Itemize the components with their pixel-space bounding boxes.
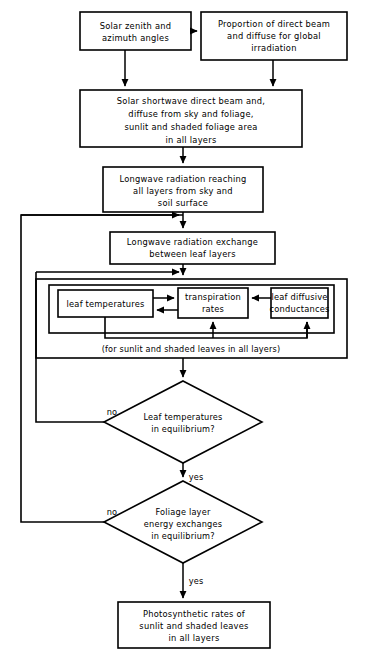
node-longwave-exchange: Longwave radiation exchange between leaf…: [110, 232, 275, 264]
node-transpiration-rates-line-0: transpiration: [185, 292, 241, 302]
label-foliage-yes: yes: [189, 576, 204, 586]
flowchart-svg: Solar zenith and azimuth angles Proporti…: [0, 0, 370, 655]
node-shortwave-line-1: diffuse from sky and foliage,: [128, 109, 253, 119]
decision-leaf-temp-line-1: in equilibrium?: [151, 424, 215, 434]
decision-foliage-energy-equilibrium: Foliage layer energy exchanges in equili…: [104, 481, 262, 563]
node-proportion-beam-line-0: Proportion of direct beam: [218, 19, 330, 29]
node-shortwave-line-0: Solar shortwave direct beam and,: [117, 96, 265, 106]
label-foliage-no: no: [107, 507, 118, 517]
node-photosynthetic-line-0: Photosynthetic rates of: [143, 609, 246, 619]
node-longwave-reaching: Longwave radiation reaching all layers f…: [103, 167, 263, 212]
node-shortwave-line-2: sunlit and shaded foliage area: [124, 122, 257, 132]
node-shortwave: Solar shortwave direct beam and, diffuse…: [80, 90, 302, 147]
node-longwave-reaching-line-1: all layers from sky and: [133, 186, 233, 196]
decision-foliage-line-2: in equilibrium?: [151, 531, 215, 541]
decision-leaf-temp-equilibrium: Leaf temperatures in equilibrium?: [104, 381, 262, 463]
label-leaf-temp-yes: yes: [189, 472, 204, 482]
node-shortwave-line-3: in all layers: [166, 135, 217, 145]
node-transpiration-rates-line-1: rates: [202, 304, 224, 314]
node-solar-angles: Solar zenith and azimuth angles: [80, 12, 191, 50]
decision-foliage-line-0: Foliage layer: [156, 507, 211, 517]
node-leaf-temperatures-line-0: leaf temperatures: [67, 299, 145, 309]
node-photosynthetic-line-2: in all layers: [169, 633, 220, 643]
node-solar-angles-box: [80, 12, 191, 50]
label-leaf-temp-no: no: [107, 407, 118, 417]
node-longwave-exchange-line-0: Longwave radiation exchange: [127, 237, 258, 247]
node-solar-angles-line-1: azimuth angles: [102, 33, 169, 43]
node-photosynthetic: Photosynthetic rates of sunlit and shade…: [118, 602, 270, 648]
node-solar-angles-line-0: Solar zenith and: [100, 21, 172, 31]
node-proportion-beam-line-2: irradiation: [251, 43, 296, 53]
decision-leaf-temp-line-0: Leaf temperatures: [143, 412, 222, 422]
node-transpiration-rates: transpiration rates: [178, 288, 248, 318]
node-leaf-diffusive-line-0: leaf diffusive: [271, 292, 327, 302]
node-proportion-beam: Proportion of direct beam and diffuse fo…: [201, 12, 347, 60]
note-sunlit-shaded: (for sunlit and shaded leaves in all lay…: [102, 344, 281, 354]
node-longwave-exchange-line-1: between leaf layers: [149, 249, 235, 259]
flowchart-canvas: Solar zenith and azimuth angles Proporti…: [0, 0, 370, 655]
decision-leaf-temp-shape: [104, 381, 262, 463]
node-photosynthetic-line-1: sunlit and shaded leaves: [139, 621, 248, 631]
node-proportion-beam-line-1: and diffuse for global: [227, 31, 321, 41]
node-longwave-reaching-line-0: Longwave radiation reaching: [119, 174, 246, 184]
node-longwave-reaching-line-2: soil surface: [158, 198, 208, 208]
node-leaf-diffusive-conductances: leaf diffusive conductances: [270, 288, 330, 318]
node-leaf-temperatures: leaf temperatures: [58, 290, 153, 317]
bus-leaf-feedback: [105, 317, 307, 338]
node-leaf-diffusive-line-1: conductances: [270, 304, 330, 314]
decision-foliage-line-1: energy exchanges: [144, 519, 222, 529]
